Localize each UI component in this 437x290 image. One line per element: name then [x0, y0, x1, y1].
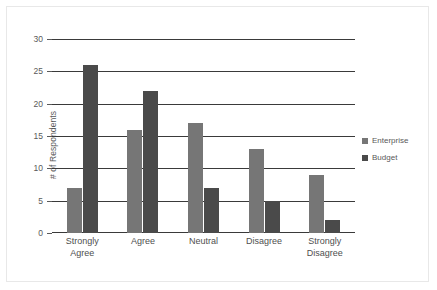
bar: [127, 130, 142, 233]
legend-swatch-icon: [362, 155, 368, 161]
y-tick-label-25: 25: [13, 67, 43, 76]
bar: [83, 65, 98, 233]
y-tick-label-5: 5: [13, 196, 43, 205]
bar: [204, 188, 219, 233]
y-tick-label-0: 0: [13, 229, 43, 238]
x-axis-label: Neutral: [173, 236, 234, 248]
legend-label: Enterprise: [372, 137, 408, 145]
y-tick-label-15: 15: [13, 132, 43, 141]
y-tick-label-30: 30: [13, 35, 43, 44]
y-tick-label-10: 10: [13, 164, 43, 173]
x-axis-label: Disagree: [234, 236, 295, 248]
chart-container: # of Respondents 051015202530 Strongly A…: [0, 0, 437, 290]
bar: [143, 91, 158, 233]
bar: [249, 149, 264, 233]
chart-legend: EnterpriseBudget: [362, 136, 432, 170]
bar-group: [52, 39, 113, 233]
bar-group: [294, 39, 355, 233]
legend-item-enterprise[interactable]: Enterprise: [362, 136, 432, 146]
legend-item-budget[interactable]: Budget: [362, 153, 432, 163]
bar: [325, 220, 340, 233]
bar: [188, 123, 203, 233]
x-axis-label: Strongly Agree: [52, 236, 113, 259]
bar: [265, 201, 280, 233]
bar-group-layer: [52, 39, 355, 233]
y-tick-label-20: 20: [13, 99, 43, 108]
x-axis-label-group: Strongly AgreeAgreeNeutralDisagreeStrong…: [52, 236, 355, 276]
bar-group: [234, 39, 295, 233]
bar-group: [173, 39, 234, 233]
bar-group: [113, 39, 174, 233]
x-axis-label: Agree: [113, 236, 174, 248]
x-axis-label: Strongly Disagree: [294, 236, 355, 259]
bar: [309, 175, 324, 233]
bar: [67, 188, 82, 233]
y-tick-mark-0: [47, 233, 52, 234]
legend-label: Budget: [372, 154, 397, 162]
legend-swatch-icon: [362, 138, 368, 144]
